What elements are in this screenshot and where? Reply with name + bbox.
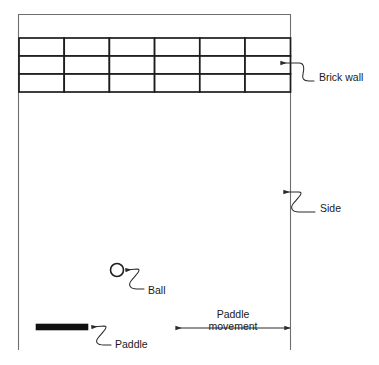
- brick-cell: [245, 38, 291, 56]
- brick-cell: [155, 38, 200, 56]
- brick-wall-label: Brick wall: [319, 71, 363, 83]
- brick-cell: [200, 74, 245, 92]
- brick-cell: [245, 56, 291, 74]
- brick-cell: [155, 74, 200, 92]
- paddle-group: Paddle: [36, 324, 148, 350]
- paddle-leader-line: [92, 326, 111, 345]
- ball-group: Ball: [111, 264, 166, 296]
- side-label: Side: [320, 202, 341, 214]
- diagram-canvas: Brick wall Side Ball Paddle Paddle movem…: [0, 0, 379, 365]
- brick-cell: [19, 74, 64, 92]
- ball-leader-line: [126, 269, 144, 289]
- brick-cell: [64, 56, 109, 74]
- paddle-movement-label-line2: movement: [208, 320, 257, 332]
- paddle-shape: [36, 324, 88, 330]
- paddle-label: Paddle: [115, 338, 148, 350]
- brick-cell: [155, 56, 200, 74]
- brick-cell: [109, 74, 154, 92]
- brick-wall: [19, 38, 291, 92]
- ball-label: Ball: [148, 284, 166, 296]
- top-frame-bar: [19, 15, 291, 39]
- paddle-movement-label-line1: Paddle: [217, 308, 250, 320]
- side-callout: Side: [284, 192, 341, 214]
- brick-cell: [109, 56, 154, 74]
- brick-cell: [200, 56, 245, 74]
- brick-cell: [245, 74, 291, 92]
- brick-wall-callout: Brick wall: [281, 63, 363, 83]
- paddle-movement-callout: Paddle movement: [176, 308, 290, 332]
- brick-cell: [64, 74, 109, 92]
- brick-cell: [200, 38, 245, 56]
- brick-cell: [19, 38, 64, 56]
- ball-shape: [111, 264, 124, 277]
- brick-cell: [19, 56, 64, 74]
- breakout-diagram: Brick wall Side Ball Paddle Paddle movem…: [0, 0, 379, 365]
- side-leader-line: [284, 192, 315, 212]
- brick-cell: [64, 38, 109, 56]
- brick-cell: [109, 38, 154, 56]
